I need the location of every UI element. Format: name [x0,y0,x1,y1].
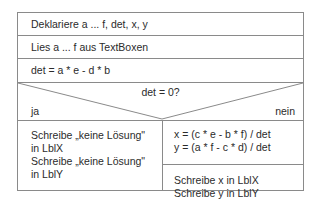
declare-text: Deklariere a ... f, det, x, y [31,18,148,30]
compute-xy-block: x = (c * e - b * f) / det y = (a * f - c… [163,120,304,165]
declare-block: Deklariere a ... f, det, x, y [18,13,303,36]
write-xy-block: Schreibe x in LblX Schreibe y in LblY [163,165,304,199]
true-label: ja [31,105,39,117]
false-label: nein [275,105,295,117]
read-block: Lies a ... f aus TextBoxen [18,36,303,59]
decision-block: det = 0? ja nein [18,83,303,121]
write-no-solution-x: Schreibe „keine Lösung" in LblX [18,129,162,154]
true-branch: Schreibe „keine Lösung" in LblX Schreibe… [18,120,162,190]
write-no-solution-y: Schreibe „keine Lösung" in LblY [18,155,162,180]
decision-condition: det = 0? [18,86,303,98]
false-branch: x = (c * e - b * f) / det y = (a * f - c… [162,120,304,190]
compute-det-text: det = a * e - d * b [31,64,110,76]
compute-det-block: det = a * e - d * b [18,59,303,83]
read-text: Lies a ... f aus TextBoxen [31,41,148,53]
structogram: Deklariere a ... f, det, x, y Lies a ...… [17,12,304,191]
